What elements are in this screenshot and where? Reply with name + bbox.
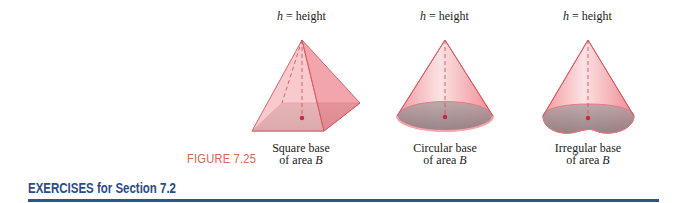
figure-label: FIGURE 7.25 <box>187 151 256 166</box>
caption-irregular-base: Irregular base of area B <box>533 142 643 166</box>
circular-cone <box>397 40 493 131</box>
height-label-circular-cone: h = height <box>420 9 469 24</box>
section-heading: EXERCISES for Section 7.2 <box>28 180 176 196</box>
height-label-irregular-cone: h = height <box>563 9 612 24</box>
heading-rule <box>28 199 659 202</box>
caption-circular-base: Circular base of area B <box>390 142 500 166</box>
irregular-cone <box>543 40 634 133</box>
square-pyramid <box>252 40 360 131</box>
solids-illustration <box>0 0 678 203</box>
figure-7-25: h = height h = height h = height Square … <box>0 0 678 203</box>
caption-square-base: Square base of area B <box>246 142 356 166</box>
height-label-pyramid: h = height <box>277 9 326 24</box>
